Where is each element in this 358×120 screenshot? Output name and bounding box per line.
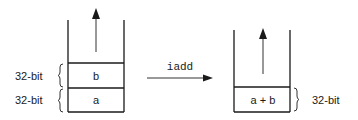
left-brace-icon — [58, 89, 63, 112]
instruction-label: iadd — [167, 61, 193, 73]
iadd-stack-diagram: b a 32-bit 32-bit iadd a + b 32-bit — [0, 0, 358, 120]
stack-cell-a: a — [93, 94, 100, 106]
arrowhead-up-icon — [92, 8, 100, 19]
before-stack: b a 32-bit 32-bit — [15, 8, 124, 112]
stack-cell-sum: a + b — [251, 94, 276, 106]
stack-cell-b: b — [93, 70, 99, 82]
instruction-transition: iadd — [147, 61, 213, 82]
size-label-b: 32-bit — [15, 70, 43, 82]
arrowhead-up-icon — [259, 28, 267, 39]
size-label-sum: 32-bit — [312, 94, 340, 106]
arrowhead-right-icon — [203, 75, 213, 82]
left-brace-icon — [58, 64, 63, 87]
right-brace-icon — [294, 88, 299, 111]
after-stack: a + b 32-bit — [234, 28, 340, 112]
size-label-a: 32-bit — [15, 94, 43, 106]
